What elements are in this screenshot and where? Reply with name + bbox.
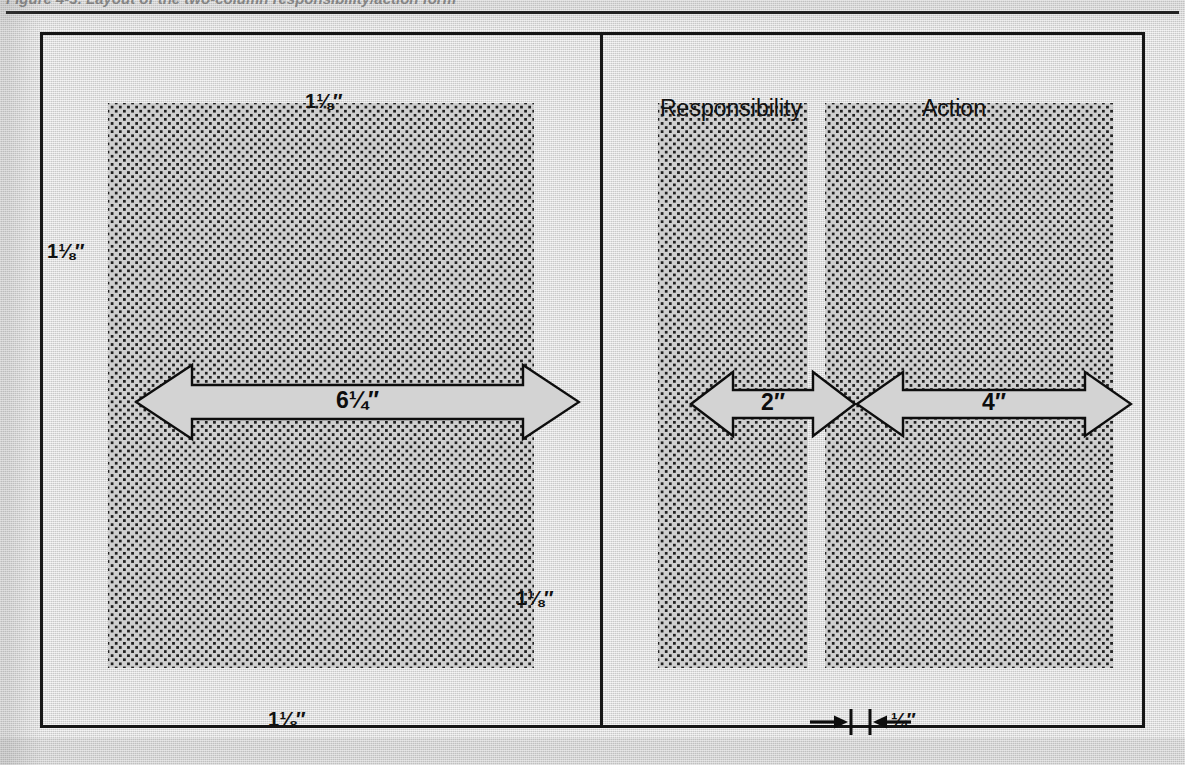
left-panel-width-value: 6¼″ [134, 387, 581, 414]
action-column-heading: Action [922, 95, 986, 122]
left-panel-right-margin-label: 1⅛″ [516, 587, 554, 610]
responsibility-column-heading: Responsibility [660, 95, 802, 122]
panel-divider-line [600, 35, 603, 725]
left-panel-width-arrow: 6¼″ [134, 357, 581, 447]
responsibility-width-value: 2″ [689, 389, 857, 416]
left-panel-left-margin-label: 1⅛″ [47, 240, 85, 263]
gutter-width-label: ¼″ [891, 709, 916, 731]
gap-arrows-icon [808, 708, 968, 736]
action-width-value: 4″ [855, 389, 1133, 416]
figure-caption-clipped: Figure 4-3. Layout of the two-column res… [0, 0, 1185, 7]
action-width-arrow: 4″ [855, 365, 1133, 443]
figure-caption-text: Figure 4-3. Layout of the two-column res… [0, 0, 1185, 7]
left-panel-top-margin-label: 1⅛″ [305, 90, 343, 113]
left-panel-bottom-margin-label: 1⅛″ [268, 708, 306, 731]
page-bottom-shading [0, 738, 1185, 765]
diagram-outer-frame: 1⅛″ 1⅛″ 1⅛″ 1⅛″ 6¼″ Responsibility Actio… [40, 32, 1145, 728]
horizontal-rule [6, 11, 1179, 14]
gutter-gap-marker [808, 708, 968, 736]
responsibility-width-arrow: 2″ [689, 365, 857, 443]
